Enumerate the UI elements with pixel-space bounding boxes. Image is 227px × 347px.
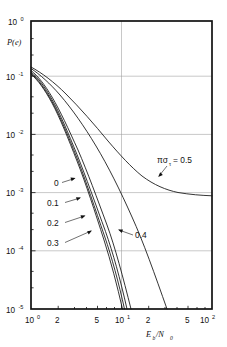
- x-tick-label-3: 10: [115, 316, 125, 325]
- x-tick-label-2: 5: [95, 316, 100, 325]
- svg-text:= 0.5: = 0.5: [173, 155, 192, 165]
- x-axis-title: E b /N 0: [145, 330, 173, 341]
- x-tick-label-5: 5: [185, 316, 190, 325]
- curve-0: [31, 74, 123, 309]
- y-tick-labels: 10 0 10 -1 10 -2 10 -3 10 -4 10 -5: [6, 16, 24, 315]
- y-tick-exp-1: -1: [19, 71, 24, 77]
- annotation-arrow-0: [71, 178, 76, 182]
- annotation-label-0-1: 0.1: [47, 198, 59, 208]
- svg-text:0: 0: [170, 335, 173, 341]
- svg-text:/N: /N: [155, 330, 164, 339]
- annotations-group: 0 0.1 0.2 0.3 0.4 πσ τ = 0.5: [47, 155, 192, 248]
- y-tick-label-0: 10: [8, 18, 18, 27]
- chart-figure: 10 0 10 -1 10 -2 10 -3 10 -4 10 -5 10 0 …: [0, 0, 227, 347]
- x-tick-label-6: 10: [200, 316, 210, 325]
- x-tick-labels: 10 0 2 5 10 1 2 5 10 2: [25, 314, 215, 325]
- gridlines: [31, 21, 212, 309]
- annotation-label-0: 0: [54, 178, 59, 188]
- svg-text:τ: τ: [169, 161, 172, 167]
- x-tick-exp-0: 0: [37, 314, 40, 320]
- annotation-arrow-0-1: [76, 197, 81, 201]
- annotation-label-0-4: 0.4: [135, 230, 147, 240]
- ber-vs-ebn0-plot: 10 0 10 -1 10 -2 10 -3 10 -4 10 -5 10 0 …: [0, 0, 227, 347]
- y-tick-exp-3: -3: [19, 187, 24, 193]
- y-tick-exp-4: -4: [19, 245, 24, 251]
- y-tick-exp-0: 0: [21, 16, 24, 22]
- y-tick-label-4: 10: [6, 247, 16, 256]
- y-tick-exp-5: -5: [19, 304, 24, 310]
- svg-text:E: E: [145, 330, 151, 339]
- annotation-label-0-3: 0.3: [47, 238, 59, 248]
- curve-0-4: [31, 69, 167, 310]
- y-tick-label-5: 10: [6, 306, 16, 315]
- x-tick-exp-6: 2: [212, 314, 215, 320]
- annotation-label-0-5: πσ τ = 0.5: [157, 155, 192, 167]
- y-tick-label-2: 10: [6, 131, 16, 140]
- y-tick-label-3: 10: [6, 189, 16, 198]
- x-tick-exp-3: 1: [127, 314, 130, 320]
- y-tick-exp-2: -2: [19, 129, 24, 135]
- curve-0-1: [31, 73, 125, 309]
- annotation-arrow-0-5: [158, 172, 163, 177]
- y-axis-title: P(e): [6, 38, 22, 47]
- x-tick-label-0: 10: [25, 316, 35, 325]
- y-tick-label-1: 10: [6, 73, 16, 82]
- annotation-arrow-0-4: [118, 229, 123, 233]
- annotation-arrow-0-2: [81, 215, 86, 219]
- annotation-arrow-0-3: [87, 231, 92, 235]
- x-tick-label-4: 2: [146, 316, 151, 325]
- annotation-label-0-2: 0.2: [47, 218, 59, 228]
- svg-text:πσ: πσ: [157, 155, 169, 165]
- x-tick-label-1: 2: [55, 316, 60, 325]
- annotation-leader-0-3: [65, 231, 91, 243]
